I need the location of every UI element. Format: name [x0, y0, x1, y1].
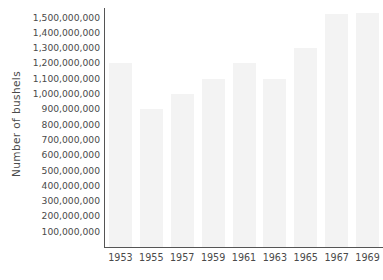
y-axis-tick-label: 300,000,000: [22, 196, 100, 206]
y-axis-tick-label: 1,300,000,000: [22, 43, 100, 53]
y-axis-tick-label: 1,500,000,000: [22, 13, 100, 23]
bar: [233, 63, 256, 247]
y-axis-tick-label: 600,000,000: [22, 150, 100, 160]
bar-chart: Number of bushels 100,000,000200,000,000…: [0, 0, 383, 280]
y-axis-tick-label: 1,200,000,000: [22, 58, 100, 68]
x-axis-tick-label: 1957: [167, 252, 197, 264]
x-axis-tick-label: 1965: [291, 252, 321, 264]
y-axis-tick-label: 1,100,000,000: [22, 74, 100, 84]
bar: [109, 63, 132, 247]
y-axis-tick-label: 900,000,000: [22, 104, 100, 114]
y-axis-tick-label: 1,000,000,000: [22, 89, 100, 99]
bars-layer: [105, 8, 383, 247]
bar: [171, 94, 194, 247]
x-axis-tick-label: 1967: [322, 252, 352, 264]
y-axis-tick-label: 700,000,000: [22, 135, 100, 145]
x-axis-tick-label: 1959: [198, 252, 228, 264]
x-axis-tick-labels: 195319551957195919611963196519671969: [104, 252, 383, 270]
x-axis-tick-label: 1953: [105, 252, 135, 264]
bar: [294, 48, 317, 247]
x-axis-line: [104, 247, 383, 248]
y-axis-tick-label: 500,000,000: [22, 166, 100, 176]
y-axis-tick-label: 200,000,000: [22, 211, 100, 221]
bar: [325, 14, 348, 247]
x-axis-tick-label: 1969: [353, 252, 383, 264]
x-axis-tick-label: 1955: [136, 252, 166, 264]
bar: [140, 109, 163, 247]
y-axis-tick-label: 400,000,000: [22, 181, 100, 191]
y-axis-tick-label: 1,400,000,000: [22, 28, 100, 38]
x-axis-tick-label: 1963: [260, 252, 290, 264]
plot-area: [104, 8, 383, 248]
bar: [356, 13, 379, 247]
y-axis-tick-label: 800,000,000: [22, 120, 100, 130]
bar: [263, 79, 286, 247]
bar: [202, 79, 225, 247]
y-axis-tick-labels: 100,000,000200,000,000300,000,000400,000…: [22, 0, 100, 252]
y-axis-tick-label: 100,000,000: [22, 227, 100, 237]
x-axis-tick-label: 1961: [229, 252, 259, 264]
